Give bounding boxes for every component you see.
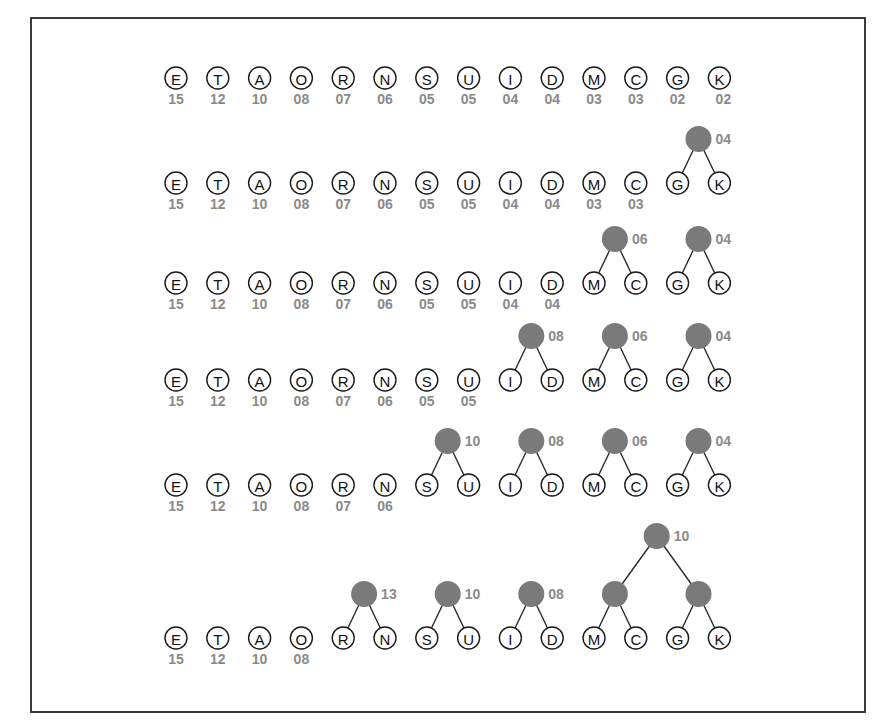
node-weight-label: 08 — [548, 328, 564, 344]
leaf-frequency: 02 — [670, 91, 686, 107]
leaf-letter: I — [508, 478, 512, 495]
step-1: E15T12A10O08R07N06S05U05I04D04M03C03G02K… — [165, 67, 731, 107]
internal-node — [518, 323, 544, 349]
internal-node — [602, 581, 628, 607]
leaf-frequency: 05 — [461, 393, 477, 409]
leaf-frequency: 12 — [210, 651, 226, 667]
leaf-frequency: 07 — [335, 393, 351, 409]
leaf-letter: K — [714, 478, 724, 495]
leaf-letter: D — [547, 373, 558, 390]
leaf-frequency: 07 — [335, 296, 351, 312]
leaf-frequency: 05 — [419, 91, 435, 107]
internal-node — [435, 428, 461, 454]
leaf-letter: D — [547, 71, 558, 88]
leaf-letter: C — [630, 631, 641, 648]
internal-node — [602, 428, 628, 454]
leaf-frequency: 03 — [628, 196, 644, 212]
leaf-letter: U — [463, 631, 474, 648]
leaf-letter: G — [672, 276, 684, 293]
leaf-frequency: 15 — [168, 296, 184, 312]
leaf-frequency: 07 — [335, 91, 351, 107]
leaf-frequency: 03 — [586, 91, 602, 107]
node-weight-label: 06 — [632, 328, 648, 344]
leaf-letter: E — [171, 373, 181, 390]
leaf-frequency: 15 — [168, 91, 184, 107]
node-weight-label: 10 — [465, 586, 481, 602]
leaf-letter: A — [255, 276, 265, 293]
leaf-letter: E — [171, 71, 181, 88]
leaf-frequency: 08 — [294, 296, 310, 312]
leaf-letter: G — [672, 71, 684, 88]
leaf-letter: E — [171, 176, 181, 193]
leaf-letter: M — [588, 176, 601, 193]
leaf-letter: G — [672, 478, 684, 495]
leaf-letter: S — [422, 176, 432, 193]
leaf-letter: K — [714, 631, 724, 648]
node-weight-label: 04 — [716, 131, 732, 147]
internal-node — [602, 323, 628, 349]
leaf-frequency: 12 — [210, 393, 226, 409]
leaf-letter: M — [588, 373, 601, 390]
leaf-frequency: 15 — [168, 393, 184, 409]
leaf-frequency: 08 — [294, 393, 310, 409]
leaf-frequency: 05 — [461, 296, 477, 312]
step-3: 0604E15T12A10O08R07N06S05U05I04D04MCGK — [165, 226, 731, 312]
leaf-letter: M — [588, 631, 601, 648]
leaf-frequency: 05 — [461, 196, 477, 212]
internal-node — [686, 226, 712, 252]
leaf-letter: R — [338, 373, 349, 390]
leaf-letter: N — [380, 478, 391, 495]
leaf-letter: A — [255, 373, 265, 390]
leaf-letter: I — [508, 373, 512, 390]
internal-node — [644, 523, 670, 549]
leaf-letter: A — [255, 631, 265, 648]
leaf-frequency: 10 — [252, 196, 268, 212]
leaf-letter: C — [630, 373, 641, 390]
leaf-letter: D — [547, 631, 558, 648]
leaf-letter: E — [171, 631, 181, 648]
node-weight-label: 06 — [632, 231, 648, 247]
leaf-frequency: 05 — [461, 91, 477, 107]
leaf-letter: E — [171, 478, 181, 495]
leaf-frequency: 10 — [252, 296, 268, 312]
internal-node — [686, 428, 712, 454]
step-4: 080604E15T12A10O08R07N06S05U05IDMCGK — [165, 323, 731, 409]
leaf-letter: G — [672, 176, 684, 193]
leaf-letter: R — [338, 478, 349, 495]
leaf-letter: S — [422, 478, 432, 495]
leaf-frequency: 04 — [544, 296, 560, 312]
leaf-frequency: 06 — [377, 393, 393, 409]
leaf-frequency: 04 — [544, 91, 560, 107]
leaf-letter: G — [672, 373, 684, 390]
leaf-letter: T — [213, 373, 222, 390]
leaf-letter: U — [463, 373, 474, 390]
leaf-letter: I — [508, 176, 512, 193]
leaf-letter: R — [338, 176, 349, 193]
leaf-letter: U — [463, 71, 474, 88]
node-weight-label: 10 — [674, 528, 690, 544]
step-6: 10131008E15T12A10O08RNSUIDMCGK — [165, 523, 730, 667]
leaf-frequency: 05 — [419, 296, 435, 312]
leaf-frequency: 04 — [544, 196, 560, 212]
leaf-letter: K — [714, 373, 724, 390]
internal-node — [686, 323, 712, 349]
leaf-letter: O — [296, 373, 308, 390]
internal-node — [351, 581, 377, 607]
leaf-letter: C — [630, 176, 641, 193]
leaf-frequency: 02 — [716, 91, 732, 107]
internal-node — [602, 226, 628, 252]
leaf-letter: T — [213, 71, 222, 88]
leaf-frequency: 06 — [377, 91, 393, 107]
leaf-frequency: 12 — [210, 196, 226, 212]
leaf-letter: D — [547, 176, 558, 193]
leaf-letter: A — [255, 71, 265, 88]
internal-node — [686, 126, 712, 152]
internal-node — [518, 581, 544, 607]
leaf-frequency: 05 — [419, 196, 435, 212]
leaf-letter: O — [296, 71, 308, 88]
leaf-frequency: 06 — [377, 498, 393, 514]
internal-node — [435, 581, 461, 607]
node-weight-label: 13 — [381, 586, 397, 602]
internal-node — [686, 581, 712, 607]
leaf-letter: K — [714, 71, 724, 88]
